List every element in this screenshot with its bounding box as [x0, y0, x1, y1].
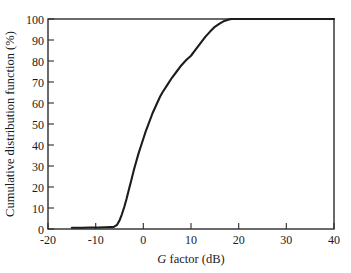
x-tick-label: 10 — [185, 233, 197, 247]
y-tick-label: 90 — [32, 34, 44, 48]
x-axis-title-italic: G — [157, 252, 166, 266]
y-tick-label: 60 — [32, 97, 44, 111]
x-tick-label: 30 — [280, 233, 292, 247]
x-tick-label: 40 — [328, 233, 340, 247]
y-tick-label: 80 — [32, 55, 44, 69]
chart-figure: -20 -10 0 10 20 30 40 0 10 20 30 40 50 6… — [0, 0, 351, 273]
x-axis-title: G factor (dB) — [157, 252, 224, 266]
y-tick-label: 10 — [32, 202, 44, 216]
y-axis-title: Cumulative distribution function (%) — [3, 31, 17, 217]
y-tick-label: 0 — [38, 223, 44, 237]
y-tick-label: 100 — [26, 13, 44, 27]
y-axis-ticks — [48, 19, 54, 229]
x-tick-labels: -20 -10 0 10 20 30 40 — [40, 233, 340, 247]
y-tick-label: 30 — [32, 160, 44, 174]
x-tick-label: 20 — [233, 233, 245, 247]
y-tick-label: 20 — [32, 181, 44, 195]
cdf-curve — [72, 19, 334, 228]
y-tick-label: 70 — [32, 76, 44, 90]
plot-frame — [48, 19, 334, 229]
x-axis-title-rest: factor (dB) — [166, 252, 224, 266]
x-tick-label: -10 — [88, 233, 104, 247]
y-tick-labels: 0 10 20 30 40 50 60 70 80 90 100 — [26, 13, 44, 237]
y-tick-label: 40 — [32, 139, 44, 153]
y-tick-label: 50 — [32, 118, 44, 132]
x-tick-label: 0 — [140, 233, 146, 247]
cdf-line-chart: -20 -10 0 10 20 30 40 0 10 20 30 40 50 6… — [0, 0, 351, 273]
